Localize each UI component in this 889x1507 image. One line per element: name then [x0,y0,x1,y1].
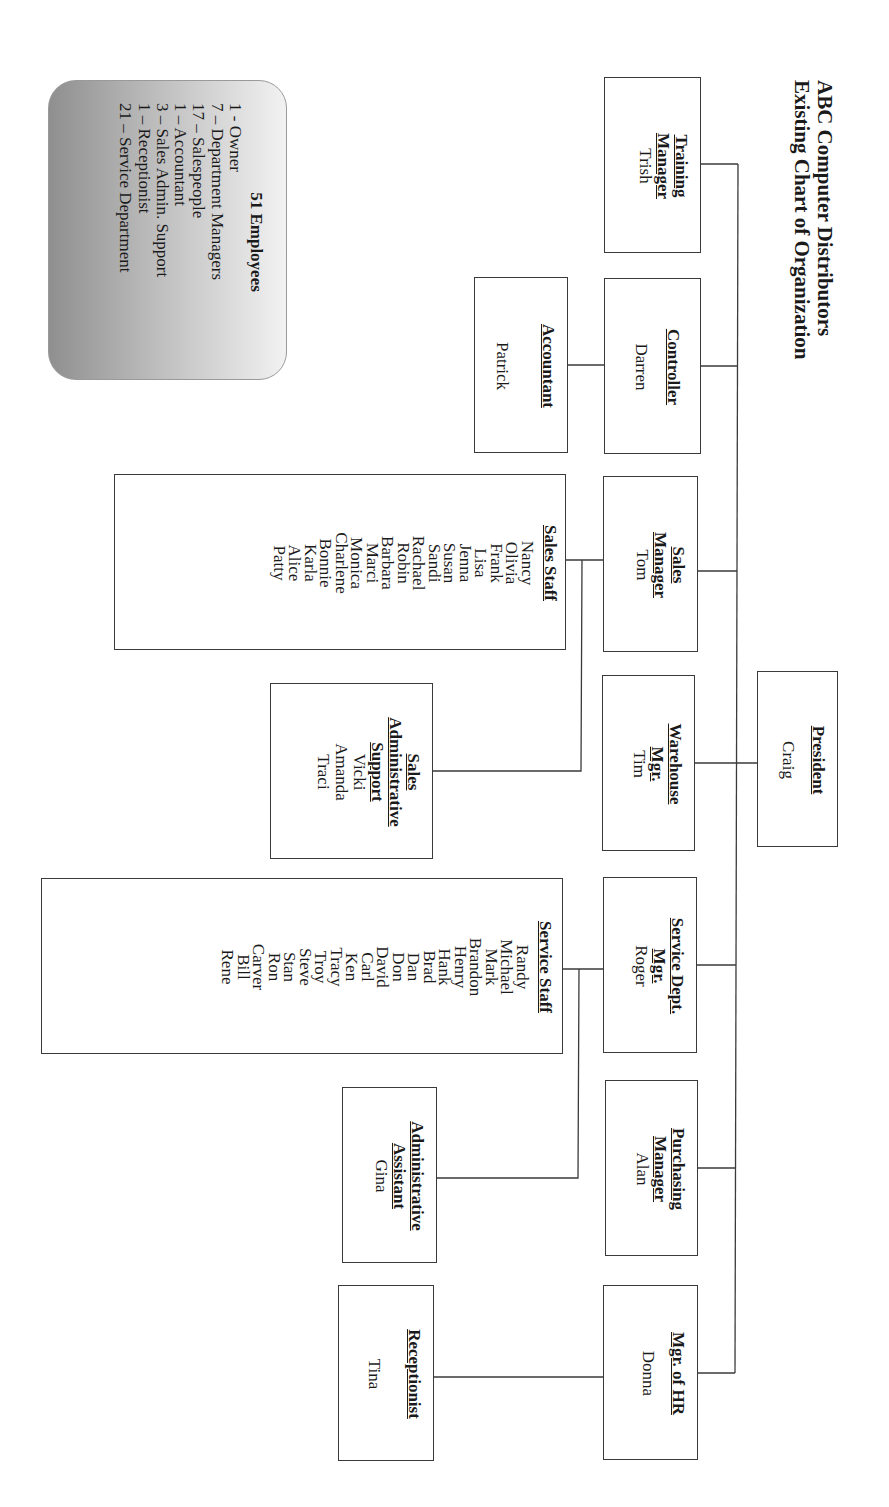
purchasing-manager-box: Purchasing Manager Alan [605,1080,698,1256]
staff-name: Monica [349,537,365,589]
staff-name: Frank [489,543,505,583]
staff-name: Randy [515,945,531,989]
staff-name: Nancy [520,541,536,585]
position-title: Warehouse [666,724,684,805]
person-name: Craig [779,741,797,779]
staff-name: Rachael [411,536,427,591]
position-title: Sales [669,547,687,584]
person-name: Tina [365,1359,383,1390]
position-title: Mgr. of HR [669,1332,687,1415]
staff-name: Carver [251,944,267,990]
position-title: Service Dept. [668,918,686,1014]
position-title: Manager [651,1136,669,1202]
staff-name: Don [391,952,407,981]
staff-name: Ken [344,953,360,981]
staff-name: Sandi [427,544,443,583]
summary-line: 21 – Service Department [116,103,134,272]
staff-name: Amanda [332,743,350,801]
service-staff-box: Service Staff Randy Michael Mark Brandon… [41,878,563,1054]
staff-name: Jenna [458,544,474,583]
staff-name: Bill [236,954,252,980]
position-title: Sales [404,754,422,791]
employee-summary-box: 51 Employees 1 - Owner 7 – Department Ma… [48,80,287,380]
position-title: Sales Staff [541,525,559,601]
admin-assistant-box: Administrative Assistant Gina [342,1087,437,1263]
sales-staff-box: Sales Staff Nancy Olivia Frank Lisa Jenn… [114,474,566,650]
staff-name: Karla [303,544,319,582]
person-name: Donna [639,1351,657,1396]
person-name: Darren [632,343,650,390]
position-title: Mgr. [650,949,668,984]
person-name: Roger [632,945,650,987]
position-title: Manager [651,532,669,598]
summary-line: 3 – Sales Admin. Support [153,103,171,277]
staff-name: Bonnie [318,538,334,587]
training-manager-box: Training Manager Trish [604,77,701,253]
staff-name: Marci [365,543,381,584]
position-title: Administrative [408,1121,426,1231]
staff-name: Traci [314,754,332,789]
staff-name: Olivia [504,542,520,585]
summary-line: 1 - Owner [226,103,244,172]
position-title: Service Staff [536,921,554,1013]
staff-name: David [375,946,391,988]
summary-line: 17 – Salespeople [189,103,207,218]
staff-name: Troy [313,951,329,983]
position-title: Controller [664,329,682,405]
person-name: Trish [636,148,654,183]
sales-admin-support-box: Sales Administrative Support Vicki Amand… [270,683,433,859]
person-name: Patrick [493,342,511,390]
staff-name: Vicki [350,754,368,791]
position-title: Assistant [390,1143,408,1209]
staff-name: Brad [422,950,438,983]
president-box: President Craig [757,671,838,847]
staff-name: Ron [267,953,283,981]
staff-name: Michael [499,939,515,995]
summary-line: 7 – Department Managers [207,103,225,280]
warehouse-manager-box: Warehouse Mgr. Tim [602,675,695,851]
service-manager-box: Service Dept. Mgr. Roger [603,877,697,1053]
staff-name: Steve [298,948,314,986]
staff-name: Brandon [468,938,484,997]
staff-name: Barbara [380,536,396,590]
staff-name: Patty [272,546,288,581]
staff-name: Mark [484,949,500,986]
staff-name: Henry [453,946,469,988]
hr-manager-box: Mgr. of HR Donna [603,1285,698,1460]
position-title: Mgr. [648,747,666,782]
staff-name: Rene [220,950,236,985]
staff-name: Carl [360,952,376,981]
heading-company: ABC Computer Distributors [813,80,836,400]
sales-manager-box: Sales Manager Tom [603,476,698,652]
person-name: Tom [633,550,651,581]
summary-title: 51 Employees [246,192,266,292]
chart-heading: ABC Computer Distributors Existing Chart… [790,80,836,400]
position-title: President [809,726,827,795]
staff-name: Robin [396,542,412,584]
staff-name: Charlene [334,532,350,593]
receptionist-box: Receptionist Tina [338,1285,434,1461]
controller-box: Controller Darren [604,278,701,454]
person-name: Tim [630,750,648,778]
staff-name: Tracy [329,947,345,986]
staff-name: Lisa [473,548,489,577]
position-title: Receptionist [405,1329,423,1419]
staff-name: Susan [442,543,458,584]
position-title: Purchasing [669,1128,687,1210]
position-title: Manager [654,133,672,199]
main-spine [735,164,738,1373]
heading-subtitle: Existing Chart of Organization [790,80,813,400]
staff-name: Alice [287,545,303,582]
summary-line: 1 – Accountant [171,103,189,206]
position-title: Support [368,742,386,802]
accountant-box: Accountant Patrick [474,277,568,453]
person-name: Alan [633,1152,651,1185]
staff-name: Stan [282,952,298,982]
position-title: Administrative [386,717,404,827]
summary-line: 1 – Receptionist [134,103,152,213]
position-title: Training [672,135,690,198]
person-name: Gina [372,1159,390,1192]
staff-name: Hank [437,949,453,986]
position-title: Accountant [539,324,557,408]
staff-name: Dan [406,953,422,981]
